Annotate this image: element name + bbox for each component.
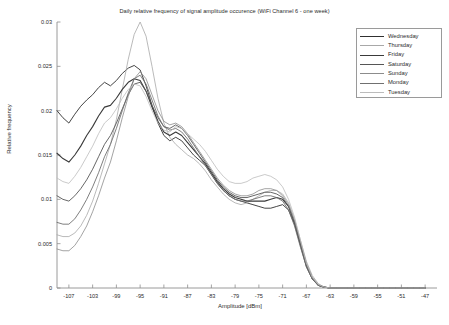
- x-axis-tick-label: -71: [279, 293, 287, 299]
- chart-legend: WednesdayThursdayFridaySaturdaySundayMon…: [356, 28, 442, 98]
- legend-item[interactable]: Wednesday: [357, 32, 441, 41]
- legend-item[interactable]: Tuesday: [357, 88, 441, 97]
- legend-item[interactable]: Monday: [357, 78, 441, 87]
- legend-item[interactable]: Sunday: [357, 69, 441, 78]
- y-axis-tick-label: 0.025: [12, 63, 52, 69]
- legend-label: Monday: [388, 80, 409, 86]
- x-axis-tick-label: -83: [207, 293, 215, 299]
- series-line: [57, 75, 425, 288]
- legend-label: Thursday: [388, 43, 412, 49]
- x-axis-tick-label: -75: [255, 293, 263, 299]
- legend-label: Friday: [388, 52, 404, 58]
- x-axis-tick-label: -99: [112, 293, 120, 299]
- x-axis-tick-label: -59: [350, 293, 358, 299]
- x-axis-tick-label: -79: [231, 293, 239, 299]
- legend-item[interactable]: Thursday: [357, 41, 441, 50]
- x-axis-tick-label: -47: [421, 293, 429, 299]
- legend-swatch: [360, 92, 384, 93]
- y-axis-tick-label: 0.01: [12, 196, 52, 202]
- y-axis-tick-label: 0.02: [12, 108, 52, 114]
- x-axis-tick-label: -95: [136, 293, 144, 299]
- x-axis-tick-label: -55: [374, 293, 382, 299]
- legend-swatch: [360, 64, 384, 65]
- legend-label: Saturday: [388, 62, 411, 68]
- legend-item[interactable]: Friday: [357, 51, 441, 60]
- x-axis-tick-label: -51: [397, 293, 405, 299]
- series-line: [57, 84, 425, 288]
- legend-swatch: [360, 55, 384, 56]
- series-line: [57, 65, 425, 288]
- y-axis-tick-label: 0: [12, 285, 52, 291]
- series-line: [57, 82, 425, 288]
- y-axis-tick-label: 0.03: [12, 19, 52, 25]
- x-axis-tick-label: -107: [63, 293, 74, 299]
- chart-figure: Daily relative frequency of signal ampli…: [0, 0, 449, 325]
- legend-label: Tuesday: [388, 90, 410, 96]
- y-axis-tick-label: 0.005: [12, 241, 52, 247]
- legend-label: Wednesday: [388, 34, 419, 40]
- legend-swatch: [360, 45, 384, 46]
- x-axis-tick-label: -87: [184, 293, 192, 299]
- legend-item[interactable]: Saturday: [357, 60, 441, 69]
- legend-swatch: [360, 73, 384, 74]
- legend-swatch: [360, 36, 384, 37]
- x-axis-tick-label: -103: [87, 293, 98, 299]
- x-axis-tick-label: -63: [326, 293, 334, 299]
- legend-label: Sunday: [388, 71, 408, 77]
- x-axis-tick-label: -67: [302, 293, 310, 299]
- legend-swatch: [360, 83, 384, 84]
- x-axis-tick-label: -91: [160, 293, 168, 299]
- y-axis-tick-label: 0.015: [12, 152, 52, 158]
- series-line: [57, 72, 425, 288]
